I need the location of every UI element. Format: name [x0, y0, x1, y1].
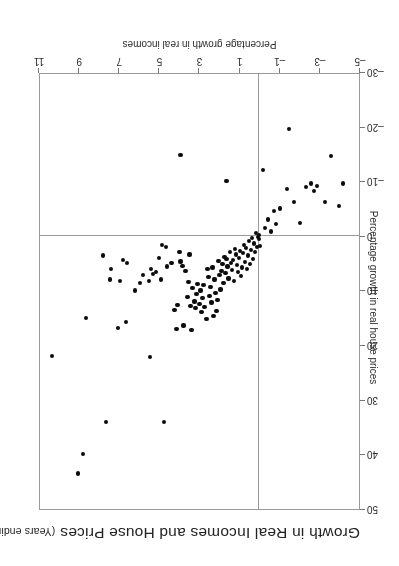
scatter-point — [206, 275, 210, 279]
scatter-point — [108, 277, 112, 281]
scatter-point — [175, 303, 179, 307]
scatter-point — [188, 304, 192, 308]
x-axis-tick-label: 5 — [157, 56, 163, 67]
scatter-point — [266, 217, 270, 221]
scatter-point — [247, 239, 251, 243]
scatter-point — [245, 267, 249, 271]
scatter-point — [225, 257, 229, 261]
scatter-point — [165, 264, 169, 268]
scatter-point — [243, 260, 247, 264]
y-axis-tick — [360, 72, 365, 73]
x-axis-tick — [118, 68, 119, 73]
scatter-point — [174, 327, 178, 331]
scatter-point — [232, 279, 236, 283]
chart-title-main: Growth in Real Incomes and House Prices — [60, 525, 360, 542]
scatter-point — [224, 271, 228, 275]
scatter-point — [226, 264, 230, 268]
scatter-point — [244, 246, 248, 250]
scatter-point — [258, 244, 262, 248]
scatter-point — [253, 250, 257, 254]
scatter-point — [292, 200, 296, 204]
scatter-point — [177, 250, 181, 254]
scatter-point — [149, 267, 153, 271]
scatter-point — [183, 269, 187, 273]
scatter-point — [195, 282, 199, 286]
scatter-point — [116, 326, 120, 330]
scatter-point — [190, 286, 194, 290]
scatter-point — [257, 233, 261, 237]
scatter-point — [209, 300, 213, 304]
x-axis-tick — [199, 68, 200, 73]
chart-title-subtitle: (Years ending 1957 Q1 – 1988 Q1) — [0, 526, 55, 538]
scatter-point — [202, 305, 206, 309]
scatter-point — [237, 256, 241, 260]
scatter-point — [109, 267, 113, 271]
scatter-point — [212, 277, 216, 281]
scatter-point — [298, 221, 302, 225]
scatter-point — [221, 281, 225, 285]
scatter-point — [312, 189, 316, 193]
scatter-point — [304, 185, 308, 189]
scatter-point — [172, 308, 176, 312]
scatter-point — [208, 285, 212, 289]
scatter-point — [251, 257, 255, 261]
scatter-point — [84, 316, 88, 320]
scatter-point — [186, 280, 190, 284]
scatter-point — [101, 253, 105, 257]
x-axis-tick-label: –5 — [354, 56, 365, 67]
scatter-point — [204, 317, 208, 321]
y-zero-reference-line — [40, 235, 359, 236]
scatter-point — [178, 153, 182, 157]
scatter-point — [141, 273, 145, 277]
scatter-point — [192, 299, 196, 303]
scatter-point — [147, 279, 151, 283]
scatter-point — [157, 256, 161, 260]
scatter-point — [124, 320, 128, 324]
x-axis-tick-label: 7 — [116, 56, 122, 67]
scatter-point — [76, 471, 80, 475]
scatter-point — [263, 226, 267, 230]
x-axis-tick-label: 1 — [237, 56, 243, 67]
scatter-point — [215, 298, 219, 302]
scatter-point — [272, 209, 276, 213]
scatter-point — [198, 288, 202, 292]
y-axis-tick — [360, 291, 365, 292]
scatter-point — [257, 237, 261, 241]
scatter-point — [187, 252, 191, 256]
y-axis-title: Percentage growth in real house prices — [368, 79, 379, 516]
scatter-point — [104, 420, 108, 424]
scatter-point — [210, 265, 214, 269]
scatter-point — [162, 420, 166, 424]
y-axis-tick — [360, 454, 365, 455]
scatter-point — [246, 253, 250, 257]
x-axis-tick-label: –3 — [314, 56, 325, 67]
scatter-point — [213, 291, 217, 295]
y-axis-tick — [360, 400, 365, 401]
scatter-point — [193, 306, 197, 310]
scatter-point — [197, 302, 201, 306]
scatter-point — [228, 250, 232, 254]
scatter-point — [309, 181, 313, 185]
scatter-point — [233, 247, 237, 251]
scatter-point — [240, 265, 244, 269]
scatter-point — [261, 168, 265, 172]
scatter-point — [239, 274, 243, 278]
y-axis-tick-label: –30 — [367, 68, 384, 79]
scatter-point — [199, 310, 203, 314]
x-axis-tick — [78, 68, 79, 73]
scatter-point — [323, 200, 327, 204]
scatter-point — [220, 262, 224, 266]
x-axis-tick-label: –1 — [274, 56, 285, 67]
scatter-point — [81, 452, 85, 456]
scatter-point — [227, 276, 231, 280]
scatter-point — [189, 328, 193, 332]
scatter-point — [241, 251, 245, 255]
scatter-point — [218, 287, 222, 291]
scatter-point — [329, 154, 333, 158]
scatter-point — [50, 354, 54, 358]
scatter-point — [169, 261, 173, 265]
scatter-point — [217, 273, 221, 277]
y-axis-tick — [360, 127, 365, 128]
scatter-point — [201, 283, 205, 287]
scatter-point — [337, 204, 341, 208]
